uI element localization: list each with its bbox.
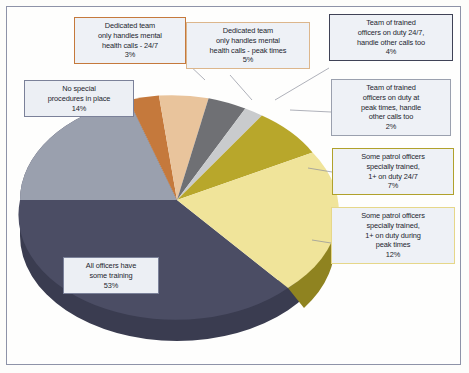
- callout-line: All officers have: [68, 261, 154, 271]
- callout-percent: 5%: [191, 55, 305, 65]
- chart-page: Dedicated team only handles mental healt…: [0, 0, 469, 373]
- callout-line: Team of trained: [336, 83, 446, 93]
- callout-line: Some patrol officers: [337, 152, 449, 162]
- callout-percent: 53%: [68, 281, 154, 291]
- callout-percent: 7%: [337, 181, 449, 191]
- callout-line: peak times: [336, 240, 450, 250]
- callout-line: Dedicated team: [79, 21, 181, 31]
- callout-line: 1+ on duty 24/7: [337, 172, 449, 182]
- callout-line: peak times, handle: [336, 103, 446, 113]
- callout-team-247: Team of trained officers on duty 24/7, h…: [329, 14, 453, 61]
- callout-line: Some patrol officers: [336, 211, 450, 221]
- callout-dedicated-247: Dedicated team only handles mental healt…: [74, 17, 186, 64]
- callout-line: only handles mental: [191, 36, 305, 46]
- callout-line: specially trained,: [337, 162, 449, 172]
- callout-line: only handles mental: [79, 31, 181, 41]
- callout-team-peak: Team of trained officers on duty at peak…: [331, 79, 451, 136]
- callout-line: health calls - 24/7: [79, 41, 181, 51]
- callout-no-special: No special procedures in place 14%: [24, 80, 134, 117]
- callout-percent: 3%: [79, 50, 181, 60]
- callout-line: officers on duty 24/7,: [334, 28, 448, 38]
- callout-dedicated-peak: Dedicated team only handles mental healt…: [186, 22, 310, 69]
- callout-line: procedures in place: [29, 94, 129, 104]
- callout-line: 1+ on duty during: [336, 231, 450, 241]
- callout-line: officers on duty at: [336, 93, 446, 103]
- callout-line: Team of trained: [334, 18, 448, 28]
- callout-line: handle other calls too: [334, 38, 448, 48]
- callout-line: some training: [68, 271, 154, 281]
- callout-line: health calls - peak times: [191, 46, 305, 56]
- callout-percent: 2%: [336, 122, 446, 132]
- callout-all-officers: All officers have some training 53%: [63, 257, 159, 294]
- callout-patrol-peak: Some patrol officers specially trained, …: [331, 207, 455, 264]
- callout-percent: 12%: [336, 250, 450, 260]
- callout-percent: 14%: [29, 104, 129, 114]
- callout-line: Dedicated team: [191, 26, 305, 36]
- callout-percent: 4%: [334, 47, 448, 57]
- callout-line: other calls too: [336, 112, 446, 122]
- callout-line: No special: [29, 84, 129, 94]
- callout-line: specially trained,: [336, 221, 450, 231]
- callout-patrol-247: Some patrol officers specially trained, …: [332, 148, 454, 195]
